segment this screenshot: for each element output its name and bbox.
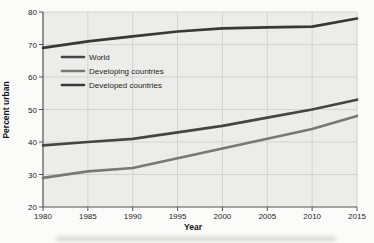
y-axis-title: Percent urban [1,81,11,138]
x-axis-title: Year [184,222,203,232]
x-tick-label: 2015 [348,212,366,221]
x-tick-label: 1985 [79,212,97,221]
x-tick-label: 1980 [34,212,52,221]
legend-label: Developing countries [89,67,164,76]
legend-label: World [89,53,110,62]
y-tick-label: 50 [28,106,37,115]
x-tick-label: 1990 [124,212,142,221]
y-tick-label: 60 [28,73,37,82]
y-tick-label: 80 [28,8,37,17]
legend-label: Developed countries [89,81,162,90]
cropped-caption-artifact [56,237,336,241]
x-tick-label: 2005 [258,212,276,221]
x-tick-label: 1995 [169,212,187,221]
y-tick-label: 20 [28,203,37,212]
y-tick-label: 30 [28,171,37,180]
y-tick-label: 40 [28,138,37,147]
urbanization-line-chart: 2030405060708019801985199019952000200520… [0,0,374,243]
x-tick-label: 2000 [214,212,232,221]
y-tick-label: 70 [28,41,37,50]
chart-figure: 2030405060708019801985199019952000200520… [0,0,374,243]
x-tick-label: 2010 [303,212,321,221]
